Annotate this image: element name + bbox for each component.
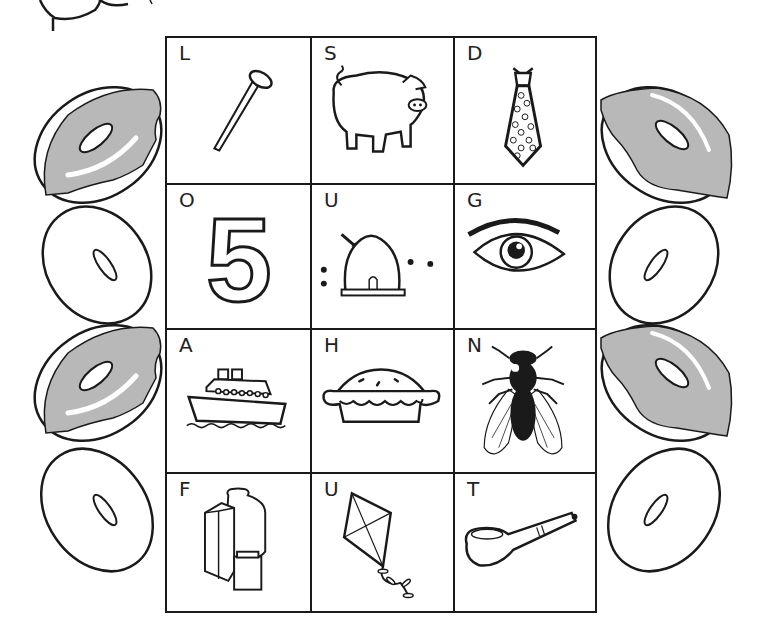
milk-cartons-icon xyxy=(167,474,310,611)
grid-cell-nail: L xyxy=(167,38,312,185)
grid-cell-fly: N xyxy=(455,330,595,474)
worksheet-page: L S D xyxy=(0,0,763,640)
frosted-donut-icon xyxy=(597,80,737,210)
plain-donut-icon xyxy=(598,195,733,335)
frosted-donut-icon xyxy=(28,318,168,448)
grid-cell-pie: H xyxy=(312,330,455,474)
grid-cell-pipe: T xyxy=(455,474,595,611)
plain-donut-icon xyxy=(30,435,165,585)
grid-cell-pig: S xyxy=(312,38,455,185)
grid-cell-tie: D xyxy=(455,38,595,185)
svg-text:5: 5 xyxy=(206,194,272,326)
grid-cell-ship: A xyxy=(167,330,312,474)
number-five-icon: 5 xyxy=(167,185,310,328)
plain-donut-icon xyxy=(598,435,733,585)
grid-cell-eye: G xyxy=(455,185,595,330)
plain-donut-icon xyxy=(30,195,165,335)
fly-icon xyxy=(455,330,595,472)
nail-icon xyxy=(167,38,310,183)
eye-icon xyxy=(455,185,595,328)
pie-icon xyxy=(312,330,453,472)
grid-cell-milk: F xyxy=(167,474,312,611)
kite-icon xyxy=(312,474,453,611)
frosted-donut-icon xyxy=(28,80,168,210)
pig-icon xyxy=(312,38,453,183)
grid-cell-kite: U xyxy=(312,474,455,611)
letter-picture-grid: L S D xyxy=(165,36,597,613)
beehive-icon xyxy=(312,185,453,328)
pipe-icon xyxy=(455,474,595,611)
grid-cell-five: O 5 xyxy=(167,185,312,330)
partial-drawing-doodle xyxy=(0,0,200,40)
grid-cell-beehive: U xyxy=(312,185,455,330)
ship-icon xyxy=(167,330,310,472)
tie-icon xyxy=(455,38,595,183)
frosted-donut-icon xyxy=(597,318,737,448)
